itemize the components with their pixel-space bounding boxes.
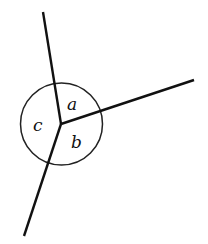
angle-label-a: a xyxy=(67,94,77,114)
diagram-svg: a c b xyxy=(0,0,208,244)
ray-down xyxy=(24,124,61,236)
angle-label-b: b xyxy=(71,132,82,152)
ray-up xyxy=(43,12,61,124)
angle-label-c: c xyxy=(33,115,43,135)
ray-right xyxy=(61,80,194,124)
angle-diagram: a c b xyxy=(0,0,208,244)
